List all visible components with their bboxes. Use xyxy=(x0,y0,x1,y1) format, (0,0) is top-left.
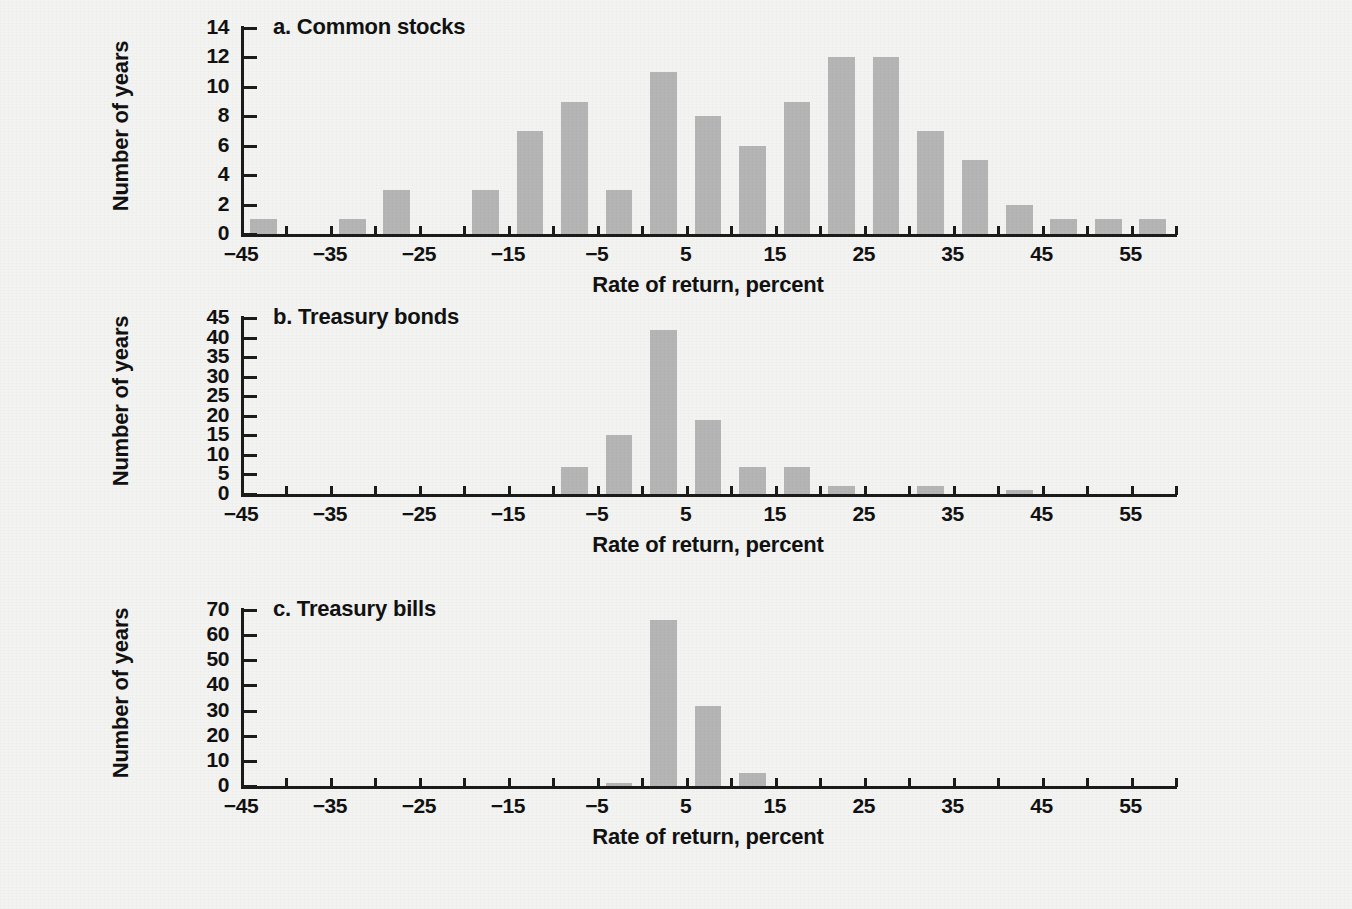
x-axis-tick xyxy=(819,486,822,495)
x-tick-label: 15 xyxy=(735,502,815,526)
x-tick-label: −5 xyxy=(557,502,637,526)
y-axis-tick xyxy=(244,659,257,662)
histogram-bar xyxy=(561,467,588,494)
x-tick-label: 55 xyxy=(1091,794,1171,818)
y-axis-tick xyxy=(244,493,257,496)
x-axis-tick xyxy=(864,226,867,235)
x-axis-tick xyxy=(819,226,822,235)
x-axis-tick xyxy=(1086,486,1089,495)
histogram-bar xyxy=(606,435,633,494)
x-axis-tick xyxy=(1175,778,1178,787)
x-tick-label: 15 xyxy=(735,794,815,818)
histogram-bar xyxy=(739,467,766,494)
y-axis-tick xyxy=(244,454,257,457)
x-tick-label: 45 xyxy=(1002,794,1082,818)
x-tick-label: 5 xyxy=(646,502,726,526)
x-axis-line xyxy=(241,786,1177,789)
x-axis-tick xyxy=(597,778,600,787)
y-tick-label: 14 xyxy=(159,15,229,39)
y-axis-title: Number of years xyxy=(108,18,134,234)
y-axis-tick xyxy=(244,174,257,177)
y-axis-title: Number of years xyxy=(108,308,134,494)
x-axis-tick xyxy=(997,226,1000,235)
x-axis-tick xyxy=(508,226,511,235)
x-axis-tick xyxy=(552,486,555,495)
x-tick-label: −25 xyxy=(379,242,459,266)
x-axis-tick xyxy=(997,486,1000,495)
histogram-bar xyxy=(917,131,944,234)
x-tick-label: 45 xyxy=(1002,242,1082,266)
x-axis-tick xyxy=(419,226,422,235)
x-axis-tick xyxy=(374,226,377,235)
x-axis-tick xyxy=(419,486,422,495)
x-tick-label: 45 xyxy=(1002,502,1082,526)
x-axis-tick xyxy=(641,778,644,787)
x-axis-tick xyxy=(953,486,956,495)
x-axis-tick xyxy=(330,486,333,495)
x-axis-tick xyxy=(775,486,778,495)
x-axis-tick xyxy=(775,778,778,787)
x-axis-tick xyxy=(1175,486,1178,495)
x-axis-title: Rate of return, percent xyxy=(141,272,1275,298)
histogram-bar xyxy=(383,190,410,234)
y-axis-tick xyxy=(244,204,257,207)
x-axis-line xyxy=(241,494,1177,497)
histogram-bar xyxy=(695,706,722,786)
x-axis-tick xyxy=(686,226,689,235)
y-axis-tick xyxy=(244,56,257,59)
histogram-bar xyxy=(1006,205,1033,234)
x-tick-label: 35 xyxy=(913,242,993,266)
x-tick-label: 15 xyxy=(735,242,815,266)
y-tick-label: 60 xyxy=(159,622,229,646)
y-axis-tick xyxy=(244,634,257,637)
x-axis-tick xyxy=(374,778,377,787)
histogram-bar xyxy=(1095,219,1122,234)
x-axis-tick xyxy=(1131,486,1134,495)
figure-page: −45−35−25−15−55152535455502468101214a. C… xyxy=(0,0,1352,909)
histogram-bar xyxy=(739,146,766,234)
histogram-bar xyxy=(561,102,588,234)
y-axis-tick xyxy=(244,785,257,788)
x-tick-label: 35 xyxy=(913,794,993,818)
y-axis-tick xyxy=(244,115,257,118)
x-axis-title: Rate of return, percent xyxy=(141,824,1275,850)
x-axis-tick xyxy=(730,486,733,495)
histogram-bar xyxy=(739,773,766,786)
x-axis-tick xyxy=(330,226,333,235)
x-axis-tick xyxy=(552,226,555,235)
x-axis-tick xyxy=(686,778,689,787)
y-tick-label: 45 xyxy=(159,305,229,329)
x-tick-label: 5 xyxy=(646,794,726,818)
x-axis-title: Rate of return, percent xyxy=(141,532,1275,558)
x-tick-label: −25 xyxy=(379,502,459,526)
y-axis-tick xyxy=(244,356,257,359)
x-axis-tick xyxy=(463,226,466,235)
y-axis-tick xyxy=(244,233,257,236)
x-axis-tick xyxy=(285,226,288,235)
x-axis-tick xyxy=(730,778,733,787)
y-tick-label: 0 xyxy=(159,773,229,797)
x-tick-label: −35 xyxy=(290,242,370,266)
x-axis-tick xyxy=(908,486,911,495)
y-axis-tick xyxy=(244,395,257,398)
y-axis-title: Number of years xyxy=(108,600,134,786)
y-axis-tick xyxy=(244,415,257,418)
x-axis-tick xyxy=(775,226,778,235)
x-axis-tick xyxy=(819,778,822,787)
y-axis-tick xyxy=(244,376,257,379)
x-axis-tick xyxy=(1175,226,1178,235)
x-axis-tick xyxy=(864,486,867,495)
x-axis-tick xyxy=(552,778,555,787)
y-axis-tick xyxy=(244,337,257,340)
y-tick-label: 70 xyxy=(159,597,229,621)
histogram-bar xyxy=(650,620,677,786)
x-axis-tick xyxy=(1042,486,1045,495)
x-axis-tick xyxy=(508,778,511,787)
x-tick-label: −35 xyxy=(290,794,370,818)
x-axis-tick xyxy=(597,226,600,235)
panel-title: b. Treasury bonds xyxy=(273,304,459,330)
x-axis-tick xyxy=(463,778,466,787)
y-tick-label: 50 xyxy=(159,647,229,671)
x-axis-tick xyxy=(1042,226,1045,235)
x-tick-label: −35 xyxy=(290,502,370,526)
